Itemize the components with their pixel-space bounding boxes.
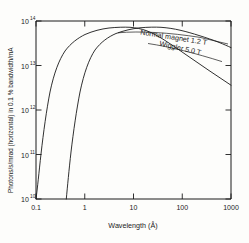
y-axis-title: Photons/s/mrad (horizontal) in 0.1 % ban… [7,47,15,193]
y-tick-label-mantissa: 10 [21,18,29,25]
x-tick-marks [36,194,231,200]
x-tick-label: 100 [176,204,188,211]
x-tick-label: 0.1 [31,204,41,211]
y-tick-label-exponent: 14 [30,16,36,21]
y-tick-label-mantissa: 10 [21,63,29,70]
curve-wiggler [36,27,231,199]
y-tick-labels: 10 14 10 13 10 12 10 11 10 10 [21,16,36,203]
y-tick-label-mantissa: 10 [21,196,29,203]
y-tick-label-exponent: 13 [30,61,36,66]
y-tick-label-exponent: 10 [30,194,36,199]
x-axis-title: Wavelength (Å) [108,221,157,230]
x-tick-label: 10 [130,204,138,211]
x-tick-marks-top [36,21,231,27]
y-tick-label-exponent: 11 [30,150,35,155]
y-tick-label-mantissa: 10 [21,107,29,114]
chart-figure: 10 14 10 13 10 12 10 11 10 10 0.1 1 10 1… [0,0,249,243]
x-tick-labels: 0.1 1 10 100 1000 [31,204,239,211]
y-tick-label-mantissa: 10 [21,152,29,159]
curve-normal-magnet [66,27,231,199]
y-tick-label-exponent: 12 [30,105,36,110]
x-tick-label: 1000 [223,204,239,211]
chart-canvas: 10 14 10 13 10 12 10 11 10 10 0.1 1 10 1… [0,0,249,243]
x-tick-label: 1 [83,204,87,211]
